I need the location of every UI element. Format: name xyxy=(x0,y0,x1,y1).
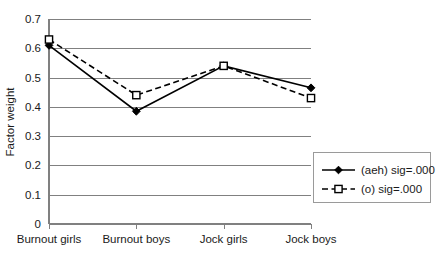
series-2 xyxy=(45,36,314,102)
y-axis-title: Factor weight xyxy=(4,87,16,157)
legend-box xyxy=(314,153,431,203)
line-chart: 00.10.20.30.40.50.60.7 Burnout girlsBurn… xyxy=(0,0,438,257)
y-tick-label: 0.1 xyxy=(25,189,41,201)
data-point-marker xyxy=(307,94,314,101)
y-tick-label: 0.4 xyxy=(25,101,42,113)
y-axis-tick-labels: 00.10.20.30.40.50.60.7 xyxy=(25,13,42,230)
chart-canvas: 00.10.20.30.40.50.60.7 Burnout girlsBurn… xyxy=(0,0,438,257)
y-tick-label: 0 xyxy=(35,218,41,230)
x-tick-label: Burnout girls xyxy=(17,233,82,245)
x-axis-tick-labels: Burnout girlsBurnout boysJock girlsJock … xyxy=(17,233,337,245)
x-tick-label: Jock girls xyxy=(200,233,248,245)
legend-label-series-1: (aeh) sig=.000 xyxy=(361,164,435,176)
y-tick-label: 0.6 xyxy=(25,42,41,54)
gridlines-group xyxy=(49,20,311,225)
legend-marker-open-square xyxy=(335,185,342,192)
x-tick-label: Burnout boys xyxy=(102,233,170,245)
y-tick-label: 0.2 xyxy=(25,159,41,171)
data-point-marker xyxy=(307,84,315,92)
y-tick-label: 0.7 xyxy=(25,13,41,25)
x-tick-label: Jock boys xyxy=(285,233,336,245)
y-tick-label: 0.3 xyxy=(25,130,41,142)
legend-label-series-2: (o) sig=.000 xyxy=(361,183,422,195)
data-series-layer xyxy=(45,36,315,115)
data-point-marker xyxy=(133,92,140,99)
y-tick-label: 0.5 xyxy=(25,72,41,84)
chart-legend: (aeh) sig=.000 (o) sig=.000 xyxy=(314,153,435,203)
data-point-marker xyxy=(45,36,52,43)
data-point-marker xyxy=(220,62,227,69)
